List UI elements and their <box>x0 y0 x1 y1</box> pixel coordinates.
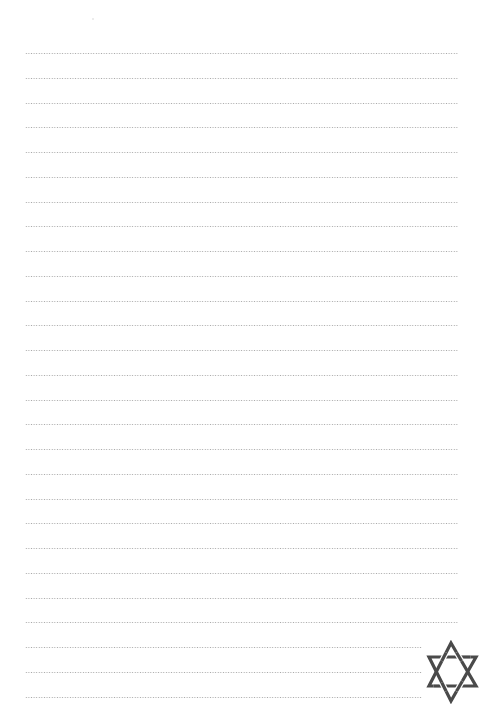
lined-paper-page <box>0 0 496 722</box>
scan-speck <box>92 18 94 20</box>
ruled-line <box>25 573 458 574</box>
ruled-line <box>25 202 458 203</box>
ruled-line <box>25 449 458 450</box>
ruled-line <box>25 672 422 673</box>
ruled-line <box>25 499 458 500</box>
ruled-line <box>25 78 458 79</box>
ruled-line <box>25 647 422 648</box>
ruled-line <box>25 127 458 128</box>
ruled-line <box>25 424 458 425</box>
ruled-line <box>25 301 458 302</box>
ruled-line <box>25 226 458 227</box>
ruled-line <box>25 276 458 277</box>
ruled-line <box>25 53 458 54</box>
ruled-line <box>25 474 458 475</box>
ruled-line <box>25 598 458 599</box>
ruled-line <box>25 375 458 376</box>
ruled-line <box>25 350 458 351</box>
ruled-line <box>25 523 458 524</box>
ruled-line <box>25 622 458 623</box>
ruled-line <box>25 152 458 153</box>
ruled-line <box>25 548 458 549</box>
ruled-line <box>25 177 458 178</box>
star-of-david-icon <box>426 640 480 704</box>
ruled-line <box>25 103 458 104</box>
ruled-line <box>25 251 458 252</box>
ruled-line <box>25 400 458 401</box>
ruled-line <box>25 697 422 698</box>
ruled-line <box>25 325 458 326</box>
